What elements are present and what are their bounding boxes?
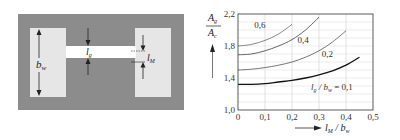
x-tick-label: 0 [236,112,241,122]
svg-text:Ag: Ag [207,12,217,24]
area-ratio-chart: 1,01,41,82,2 00,10,20,30,40,5 0,60,40,2l… [200,0,400,140]
svg-text:Ac: Ac [207,27,217,39]
x-tick-label: 0,4 [340,112,352,122]
y-tick-label: 2,2 [224,9,235,19]
curve-lg-bw-0-1 [238,57,360,84]
x-tick-label: 0,5 [367,112,379,122]
y-tick-label: 1,0 [224,105,236,115]
curve-label: 0,2 [322,49,333,59]
x-tick-label: 0,2 [286,112,297,122]
x-tick-labels: 00,10,20,30,40,5 [236,112,379,122]
x-axis-arrow-icon [295,126,322,131]
core-geometry-diagram: bw lg lM [0,0,200,140]
y-axis-label: Ag Ac [206,12,221,39]
x-tick-label: 0,3 [313,112,325,122]
air-gap-bridge [66,46,136,58]
x-tick-label: 0,1 [259,112,270,122]
y-axis-arrow-icon [210,44,215,78]
y-tick-label: 1,4 [224,73,236,83]
y-tick-label: 1,8 [224,41,236,51]
curve-label: 0,6 [254,20,266,30]
curve-label: 0,4 [297,35,309,45]
curve-label: lg / bw = 0,1 [311,82,353,93]
x-axis-label: lM / bw [325,122,350,134]
y-tick-labels: 1,01,41,82,2 [224,9,236,115]
